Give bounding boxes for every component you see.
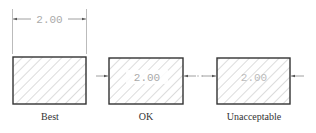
label-ok: OK [96,111,196,122]
dimension-text: 2.00 [241,72,267,84]
panel-best: 2.00 [13,9,87,104]
label-best: Best [0,111,100,122]
panel-unacceptable: 2.00 [202,58,304,104]
dimension-text: 2.00 [134,72,160,84]
hatched-rectangle [13,57,86,104]
panel-ok: 2.00 [96,58,205,104]
dimension-text: 2.00 [36,14,62,26]
label-unacceptable: Unacceptable [204,111,304,122]
